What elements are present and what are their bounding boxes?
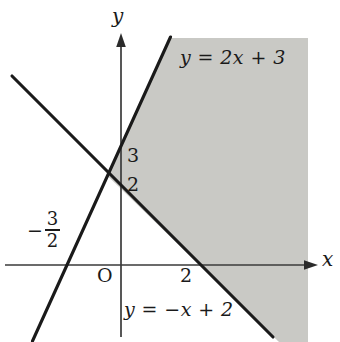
coordinate-graph-figure: y x O 3 2 2 − 3 2 y = 2x + 3 y = −x + 2 <box>0 0 340 342</box>
fraction-denominator: 2 <box>46 232 59 250</box>
fraction-numerator: 3 <box>46 210 59 228</box>
x-tick-label-2: 2 <box>180 266 192 285</box>
x-axis-label: x <box>322 249 333 269</box>
y-axis-arrowhead <box>116 33 126 47</box>
y-tick-label-2: 2 <box>127 175 139 194</box>
y-axis-label: y <box>112 6 123 26</box>
origin-label: O <box>97 266 113 285</box>
x-axis-arrowhead <box>304 260 318 270</box>
fraction-stack: 3 2 <box>45 210 60 250</box>
equation-label-line-1: y = 2x + 3 <box>180 48 286 67</box>
fraction-minus-sign: − <box>27 219 43 242</box>
graph-canvas <box>0 0 340 342</box>
equation-label-line-2: y = −x + 2 <box>124 300 233 319</box>
x-intercept-fraction-label: − 3 2 <box>27 210 60 250</box>
y-tick-label-3: 3 <box>127 146 139 165</box>
